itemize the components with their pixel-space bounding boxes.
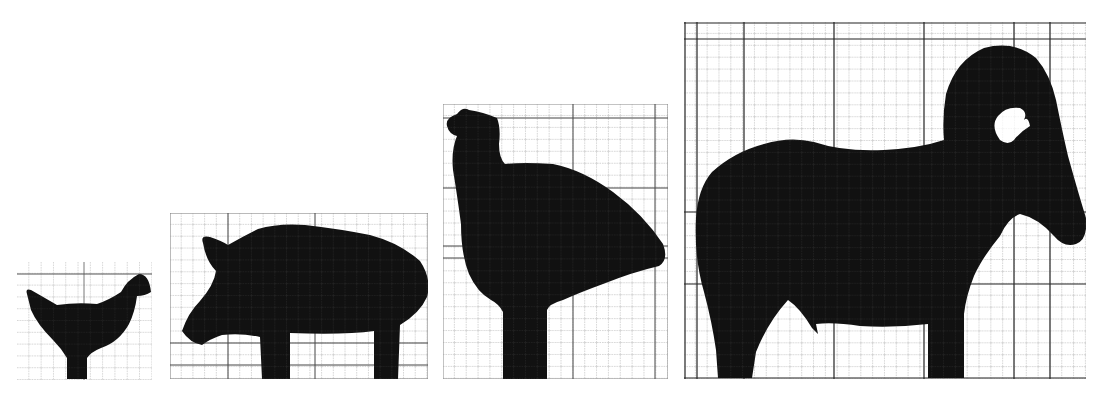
panel-pig: Pig silhouette xyxy=(170,213,428,379)
panel-chicken: Chicken silhouette xyxy=(17,262,152,380)
panel-turkey: Turkey silhouette xyxy=(443,104,668,379)
panel-ram: Ram silhouette xyxy=(684,22,1086,379)
figure-canvas: Chicken silhouette Pig silhouette xyxy=(0,0,1104,398)
turkey-target-icon xyxy=(443,104,668,379)
pig-target-icon xyxy=(170,213,428,379)
ram-target-icon xyxy=(684,22,1086,379)
chicken-target-icon xyxy=(17,262,152,380)
